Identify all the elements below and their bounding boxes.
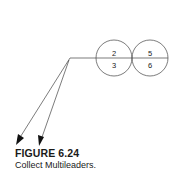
balloon-2-top: 5	[148, 49, 152, 58]
arrowhead-2-icon	[38, 135, 44, 146]
balloon-1-bottom: 3	[112, 61, 116, 70]
figure-title: FIGURE 6.24	[15, 147, 79, 159]
leader-line-1	[19, 58, 70, 139]
arrowheads	[16, 134, 44, 146]
figure-caption: Collect Multileaders.	[15, 160, 96, 170]
balloon-1-top: 2	[112, 49, 116, 58]
balloon-2-bottom: 6	[148, 61, 152, 70]
arrowhead-1-icon	[16, 134, 24, 145]
leader-line-2	[41, 60, 69, 140]
leader-lines	[19, 58, 168, 140]
